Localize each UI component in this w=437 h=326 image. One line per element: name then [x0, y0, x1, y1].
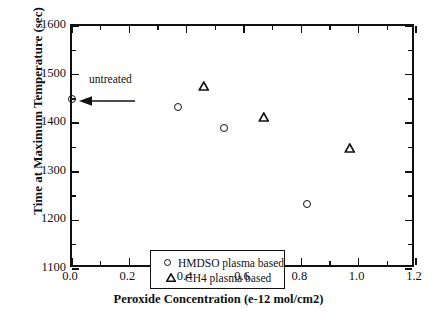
data-point-circle [220, 124, 228, 132]
legend-item[interactable]: CH4 plasma based [151, 270, 284, 285]
y-axis-minor-tick-right [408, 195, 412, 197]
x-axis-tick [71, 258, 73, 265]
y-axis-tick [72, 122, 79, 124]
x-axis-tick-top [71, 26, 73, 33]
x-axis-tick-label: 0.8 [292, 270, 308, 283]
x-axis-tick-label: 0.2 [120, 270, 136, 283]
y-axis-tick-right [405, 122, 412, 124]
chart-legend: HMDSO plasma basedCH4 plasma based [150, 250, 285, 289]
scatter-chart-figure: untreatedHMDSO plasma basedCH4 plasma ba… [0, 0, 437, 326]
x-axis-tick [301, 258, 303, 265]
x-axis-tick [415, 258, 417, 265]
x-axis-tick [358, 258, 360, 265]
untreated-annotation-label: untreated [89, 73, 132, 85]
x-axis-minor-tick [329, 261, 331, 265]
y-axis-minor-tick-right [408, 244, 412, 246]
x-axis-tick [129, 258, 131, 265]
x-axis-tick-top [243, 26, 245, 33]
circle-marker-icon [164, 259, 171, 266]
x-axis-minor-tick-top [329, 26, 331, 30]
x-axis-minor-tick-top [157, 26, 159, 30]
x-axis-tick-top [301, 26, 303, 33]
legend-label: CH4 plasma based [180, 272, 271, 284]
circle-marker-icon [220, 124, 228, 132]
x-axis-minor-tick-top [387, 26, 389, 30]
y-axis-tick-right [405, 171, 412, 173]
legend-label: HMDSO plasma based [173, 257, 284, 269]
data-point-circle [174, 103, 182, 111]
plot-area: untreatedHMDSO plasma basedCH4 plasma ba… [70, 24, 414, 267]
x-axis-tick-top [129, 26, 131, 33]
data-point-triangle [350, 139, 356, 157]
legend-item[interactable]: HMDSO plasma based [151, 255, 284, 270]
y-axis-tick [72, 25, 79, 27]
triangle-marker-icon [166, 273, 176, 282]
x-axis-tick-label: 1.2 [406, 270, 422, 283]
x-axis-tick-label: 0.6 [234, 270, 250, 283]
data-point-triangle [204, 77, 210, 95]
y-axis-tick-label: 1400 [41, 115, 66, 128]
legend-symbol [162, 259, 173, 266]
y-axis-tick-label: 1500 [41, 67, 66, 80]
y-axis-tick-right [405, 25, 412, 27]
x-axis-tick-top [358, 26, 360, 33]
circle-marker-icon [68, 95, 76, 103]
x-axis-tick-label: 1.0 [349, 270, 365, 283]
y-axis-minor-tick-right [408, 147, 412, 149]
x-axis-minor-tick-top [215, 26, 217, 30]
x-axis-tick-top [186, 26, 188, 33]
y-axis-minor-tick [72, 244, 76, 246]
x-axis-tick-top [415, 26, 417, 33]
data-point-triangle [264, 108, 270, 126]
x-axis-minor-tick [387, 261, 389, 265]
x-axis-title: Peroxide Concentration (e-12 mol/cm2) [0, 292, 437, 307]
y-axis-minor-tick-right [408, 50, 412, 52]
y-axis-tick-label: 1200 [41, 212, 66, 225]
triangle-marker-icon [198, 81, 209, 91]
y-axis-tick [72, 220, 79, 222]
x-axis-minor-tick-top [100, 26, 102, 30]
triangle-marker-icon [345, 143, 356, 153]
x-axis-minor-tick [100, 261, 102, 265]
y-axis-minor-tick [72, 195, 76, 197]
y-axis-tick-right [405, 74, 412, 76]
y-axis-tick-right [405, 220, 412, 222]
y-axis-minor-tick-right [408, 98, 412, 100]
circle-marker-icon [174, 103, 182, 111]
y-axis-tick-label: 1300 [41, 164, 66, 177]
y-axis-tick [72, 74, 79, 76]
y-axis-tick-label: 1600 [41, 18, 66, 31]
untreated-annotation-arrow-icon [79, 93, 135, 111]
x-axis-tick-label: 0.4 [177, 270, 193, 283]
y-axis-tick [72, 171, 79, 173]
y-axis-minor-tick [72, 50, 76, 52]
data-point-circle [303, 200, 311, 208]
x-axis-minor-tick-top [272, 26, 274, 30]
y-axis-minor-tick [72, 147, 76, 149]
x-axis-tick-label: 0.0 [62, 270, 78, 283]
circle-marker-icon [303, 200, 311, 208]
data-point-circle [68, 95, 76, 103]
triangle-marker-icon [259, 112, 270, 122]
